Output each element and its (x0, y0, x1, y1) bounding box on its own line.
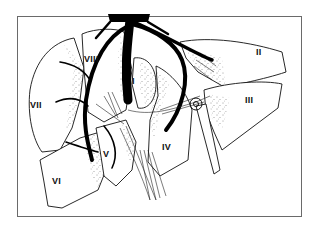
segment-label-ii: II (256, 47, 262, 57)
segment-iii-shape (204, 82, 282, 150)
segment-label-vii: VII (30, 100, 42, 110)
segment-ii-shape (180, 40, 286, 88)
segment-label-iii: III (245, 95, 253, 105)
segment-label-iv: IV (162, 142, 171, 152)
segment-vii-shape (29, 38, 84, 152)
segment-label-v: V (103, 149, 109, 159)
inferior-vena-cava (108, 14, 150, 22)
segment-label-viii: VIII (84, 54, 99, 64)
segment-label-vi: VI (52, 176, 61, 186)
segment-label-i: I (132, 76, 135, 86)
liver-segments-illustration (0, 0, 316, 228)
